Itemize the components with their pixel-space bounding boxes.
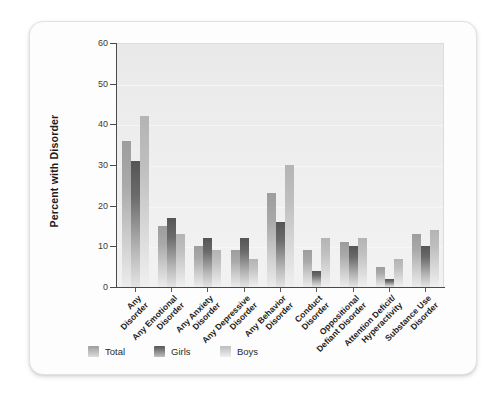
bar-boys	[394, 259, 403, 287]
bar-girls	[167, 218, 176, 287]
legend-item-total[interactable]: Total	[88, 344, 125, 358]
y-tick-label: 60	[48, 38, 108, 48]
chart-card: Percent with Disorder 0102030405060 AnyD…	[29, 21, 477, 375]
y-tick-label: 10	[48, 241, 108, 251]
bar-group	[122, 44, 149, 287]
bar-group	[158, 44, 185, 287]
bar-girls	[240, 238, 249, 287]
legend-label: Total	[105, 346, 125, 357]
bar-group	[267, 44, 294, 287]
bar-total	[376, 267, 385, 287]
legend-label: Boys	[237, 346, 258, 357]
bar-group	[376, 44, 403, 287]
y-tick-label: 20	[48, 201, 108, 211]
bar-boys	[140, 116, 149, 287]
y-tick-label: 50	[48, 79, 108, 89]
legend-label: Girls	[171, 346, 191, 357]
bar-boys	[249, 259, 258, 287]
plot-area	[117, 43, 444, 287]
bar-girls	[349, 246, 358, 287]
bar-boys	[358, 238, 367, 287]
x-tick-mark	[207, 288, 208, 292]
x-tick-mark	[425, 288, 426, 292]
y-tick-label: 0	[48, 282, 108, 292]
bar-group	[194, 44, 221, 287]
bar-boys	[321, 238, 330, 287]
x-tick-mark	[280, 288, 281, 292]
bar-total	[340, 242, 349, 287]
bar-girls	[276, 222, 285, 287]
x-tick-mark	[353, 288, 354, 292]
bar-chart: Percent with Disorder 0102030405060 AnyD…	[30, 22, 476, 374]
bar-group	[303, 44, 330, 287]
bar-total	[412, 234, 421, 287]
legend-swatch-girls	[154, 346, 165, 357]
bar-boys	[430, 230, 439, 287]
y-tick-label: 40	[48, 119, 108, 129]
legend-item-boys[interactable]: Boys	[220, 344, 258, 358]
bar-total	[231, 250, 240, 287]
legend-swatch-total	[88, 346, 99, 357]
bar-total	[303, 250, 312, 287]
x-tick-mark	[135, 288, 136, 292]
bar-girls	[421, 246, 430, 287]
bar-girls	[385, 279, 394, 287]
bar-group	[340, 44, 367, 287]
x-tick-mark	[244, 288, 245, 292]
bar-boys	[285, 165, 294, 287]
bar-total	[158, 226, 167, 287]
x-tick-mark	[171, 288, 172, 292]
bar-girls	[131, 161, 140, 287]
y-axis-title: Percent with Disorder	[48, 81, 60, 261]
bar-boys	[176, 234, 185, 287]
x-tick-mark	[389, 288, 390, 292]
bar-group	[412, 44, 439, 287]
x-tick-mark	[316, 288, 317, 292]
chart-legend: TotalGirlsBoys	[88, 344, 428, 366]
bar-boys	[212, 250, 221, 287]
bar-girls	[203, 238, 212, 287]
bar-total	[194, 246, 203, 287]
legend-item-girls[interactable]: Girls	[154, 344, 191, 358]
bar-total	[267, 193, 276, 287]
bar-total	[122, 141, 131, 287]
y-tick-label: 30	[48, 160, 108, 170]
legend-swatch-boys	[220, 346, 231, 357]
bar-girls	[312, 271, 321, 287]
bar-group	[231, 44, 258, 287]
